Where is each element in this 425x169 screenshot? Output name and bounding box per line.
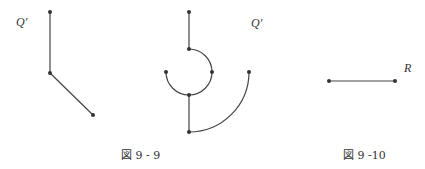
three-quarter-arc: [166, 49, 212, 95]
figure-r: R: [327, 61, 412, 83]
segment-diagonal: [50, 73, 93, 115]
vertex-dot: [393, 79, 397, 83]
vertex-dot: [187, 93, 191, 97]
caption-fig-9-10: 図 9 -10: [343, 149, 386, 162]
vertex-dot: [48, 71, 52, 75]
vertex-dot: [210, 70, 214, 74]
vertex-dot: [91, 113, 95, 117]
figure-q-prime-left: Q′: [16, 10, 95, 117]
caption-fig-9-9: 図 9 - 9: [121, 149, 160, 162]
vertex-dot: [48, 10, 52, 14]
vertex-dot: [187, 130, 191, 134]
vertex-dot: [187, 10, 191, 14]
vertex-dot: [187, 47, 191, 51]
vertex-dot: [164, 70, 168, 74]
label-r: R: [403, 61, 412, 75]
figure-q-prime-right: Q′: [164, 10, 263, 134]
quarter-arc-large: [189, 72, 249, 132]
label-q-prime-left: Q′: [16, 15, 28, 29]
label-q-prime-right: Q′: [251, 16, 263, 30]
vertex-dot: [327, 79, 331, 83]
diagram-canvas: Q′ Q′ R 図 9 - 9 図 9 -10: [0, 0, 425, 169]
vertex-dot: [247, 70, 251, 74]
